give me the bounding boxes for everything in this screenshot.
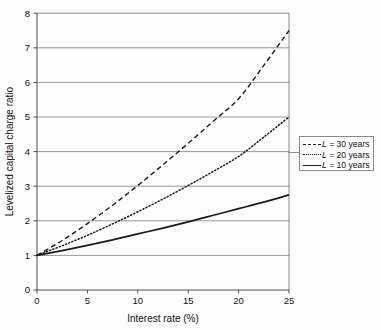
- x-tick-label: 20: [233, 295, 244, 306]
- x-tick-labels: 0 5 10 15 20 25: [34, 295, 294, 306]
- x-tick-label: 0: [34, 295, 39, 306]
- legend-text: = 10 years: [327, 160, 370, 170]
- y-tick-label: 0: [25, 284, 30, 295]
- x-tick-label: 15: [183, 295, 194, 306]
- legend-item-L30: L = 30 years: [303, 139, 370, 149]
- chart-legend: L = 30 years L = 20 years L = 10 years: [299, 136, 374, 171]
- y-tick-label: 2: [25, 215, 30, 226]
- y-tick-marks: [34, 13, 38, 290]
- y-axis-title: Levelized capital charge ratio: [4, 86, 15, 216]
- legend-label-L30: L = 30 years: [321, 139, 370, 149]
- x-tick-marks: [37, 290, 289, 294]
- x-axis-title: Interest rate (%): [127, 313, 199, 324]
- legend-label-L20: L = 20 years: [321, 150, 370, 160]
- y-tick-label: 5: [25, 111, 30, 122]
- y-tick-label: 3: [25, 181, 30, 192]
- legend-item-L20: L = 20 years: [303, 150, 370, 160]
- y-tick-labels: 8 7 6 5 4 3 2 1 0: [25, 8, 30, 296]
- x-tick-label: 10: [133, 295, 144, 306]
- legend-swatch-dotted-icon: [303, 151, 321, 159]
- legend-label-L10: L = 10 years: [321, 160, 370, 170]
- legend-item-L10: L = 10 years: [303, 160, 370, 170]
- y-tick-label: 1: [25, 250, 30, 261]
- y-tick-label: 7: [25, 42, 30, 53]
- y-tick-label: 4: [25, 146, 30, 157]
- gridlines: [37, 48, 289, 256]
- legend-swatch-dashed-icon: [303, 140, 321, 148]
- legend-text: = 30 years: [327, 139, 370, 149]
- y-tick-label: 6: [25, 77, 30, 88]
- series-line-L30: [37, 31, 289, 256]
- y-tick-label: 8: [25, 8, 30, 19]
- series-line-L10: [37, 195, 289, 256]
- legend-text: = 20 years: [327, 150, 370, 160]
- x-tick-label: 5: [85, 295, 90, 306]
- chart-figure: 8 7 6 5 4 3 2 1 0 0 5 10 15 20 25 Intere…: [0, 0, 381, 330]
- legend-swatch-solid-icon: [303, 161, 321, 169]
- x-tick-label: 25: [284, 295, 295, 306]
